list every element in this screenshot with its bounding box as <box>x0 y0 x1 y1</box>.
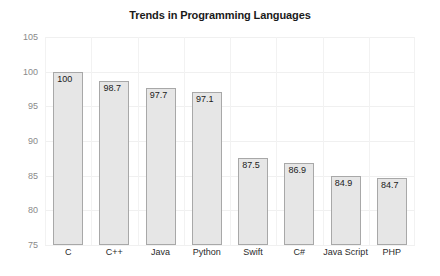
bar[interactable]: 98.7 <box>99 81 129 245</box>
gridline-vertical <box>184 37 185 245</box>
y-axis: 7580859095100105 <box>0 37 38 245</box>
x-axis-tick-label: Java <box>138 247 184 258</box>
gridline-vertical <box>45 37 46 245</box>
bar-slot: 97.1 <box>192 37 222 245</box>
x-axis-tick-label: Python <box>184 247 230 258</box>
y-axis-tick-label: 90 <box>4 137 38 146</box>
bar[interactable]: 84.9 <box>331 176 361 245</box>
gridline-vertical <box>414 37 415 245</box>
bar-slot: 84.9 <box>331 37 361 245</box>
bar[interactable]: 86.9 <box>284 163 314 246</box>
bar-value-label: 86.9 <box>288 166 306 175</box>
gridline-vertical <box>276 37 277 245</box>
gridline-vertical <box>91 37 92 245</box>
bar-value-label: 97.1 <box>196 95 214 104</box>
gridline-vertical <box>138 37 139 245</box>
bar[interactable]: 87.5 <box>238 158 268 245</box>
bar[interactable]: 100 <box>53 72 83 245</box>
bar-slot: 87.5 <box>238 37 268 245</box>
bar[interactable]: 84.7 <box>377 178 407 245</box>
gridline-vertical <box>323 37 324 245</box>
bar-slot: 97.7 <box>146 37 176 245</box>
x-axis-tick-label: PHP <box>369 247 415 258</box>
bar-slot: 86.9 <box>284 37 314 245</box>
bar-value-label: 84.7 <box>381 181 399 190</box>
y-axis-tick-label: 85 <box>4 171 38 180</box>
y-axis-tick-label: 105 <box>4 33 38 42</box>
bar-value-label: 100 <box>57 75 72 84</box>
gridline-vertical <box>230 37 231 245</box>
bar-slot: 84.7 <box>377 37 407 245</box>
plot-area: 10098.797.797.187.586.984.984.7 <box>45 37 415 245</box>
gridline-horizontal <box>45 245 415 246</box>
bar-slot: 100 <box>53 37 83 245</box>
x-axis-tick-label: C++ <box>91 247 137 258</box>
x-axis-tick-label: C# <box>276 247 322 258</box>
bar-value-label: 97.7 <box>150 91 168 100</box>
bar[interactable]: 97.7 <box>146 88 176 245</box>
x-axis: CC++JavaPythonSwiftC#Java ScriptPHP <box>45 247 415 263</box>
bar-value-label: 87.5 <box>242 161 260 170</box>
bar-chart: Trends in Programming Languages 75808590… <box>0 0 440 276</box>
y-axis-tick-label: 95 <box>4 102 38 111</box>
x-axis-tick-label: Swift <box>230 247 276 258</box>
bar-value-label: 84.9 <box>335 179 353 188</box>
bar-value-label: 98.7 <box>103 84 121 93</box>
gridline-vertical <box>369 37 370 245</box>
x-axis-tick-label: Java Script <box>323 247 369 258</box>
x-axis-tick-label: C <box>45 247 91 258</box>
y-axis-tick-label: 80 <box>4 206 38 215</box>
bar-slot: 98.7 <box>99 37 129 245</box>
chart-title: Trends in Programming Languages <box>0 9 440 21</box>
y-axis-tick-label: 75 <box>4 241 38 250</box>
y-axis-tick-label: 100 <box>4 67 38 76</box>
bar[interactable]: 97.1 <box>192 92 222 245</box>
